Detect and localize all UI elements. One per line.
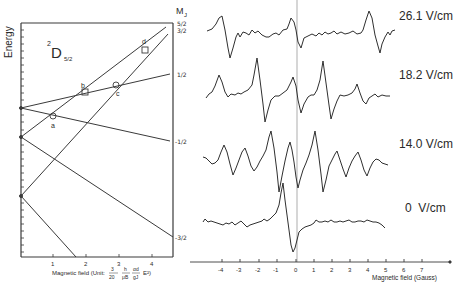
svg-text:7: 7 bbox=[420, 267, 424, 273]
line-mj-minus-5-2 bbox=[21, 196, 76, 257]
svg-text:Magnetic field (Unit:: Magnetic field (Unit: bbox=[52, 270, 105, 276]
x-tick-label: 1 bbox=[51, 261, 55, 267]
crossing-label-c: c bbox=[116, 90, 120, 97]
right-x-tick-labels: -4 -3 -2 -1 0 1 2 3 4 5 6 7 bbox=[218, 267, 424, 273]
svg-text:3: 3 bbox=[111, 266, 114, 272]
trace-label-14-0: 14.0 V/cm bbox=[399, 137, 453, 151]
mj-label: 5/2 bbox=[177, 20, 187, 27]
svg-text:-3: -3 bbox=[236, 267, 242, 273]
crossing-label-d: d bbox=[142, 38, 146, 45]
trace-14-0 bbox=[203, 131, 388, 192]
svg-text:1: 1 bbox=[312, 267, 316, 273]
crossing-label-a: a bbox=[51, 122, 55, 129]
trace-label-18-2: 18.2 V/cm bbox=[399, 68, 453, 82]
svg-text:J: J bbox=[184, 12, 187, 18]
trace-label-0: 0 V/cm bbox=[405, 201, 446, 215]
mj-label: 3/2 bbox=[177, 27, 187, 34]
svg-text:4: 4 bbox=[366, 267, 370, 273]
svg-text:-2: -2 bbox=[255, 267, 261, 273]
figure: Energy 2 D 5/2 M J 5/2 3/2 1/2 -1/2 -3/2… bbox=[0, 0, 466, 289]
svg-text:5/2: 5/2 bbox=[64, 56, 73, 62]
origin-dot bbox=[20, 107, 23, 110]
svg-text:h: h bbox=[124, 266, 127, 272]
term-symbol: 2 D 5/2 bbox=[47, 40, 73, 62]
x-tick-label: 4 bbox=[150, 261, 154, 267]
svg-text:αd: αd bbox=[133, 266, 139, 272]
trace-18-2 bbox=[206, 58, 390, 122]
mj-label: 1/2 bbox=[177, 71, 187, 78]
right-x-axis-label: Magnetic field (Gauss) bbox=[372, 274, 437, 282]
crossing-label-b: b bbox=[81, 82, 85, 89]
svg-text:-4: -4 bbox=[218, 267, 224, 273]
svg-text:gJ: gJ bbox=[133, 274, 139, 280]
zeeman-lines bbox=[21, 27, 173, 257]
left-x-axis-label: Magnetic field (Unit: 3 20 h μB αd gJ E²… bbox=[52, 266, 151, 280]
svg-text:5: 5 bbox=[384, 267, 388, 273]
origin-dot bbox=[20, 136, 23, 139]
svg-text:0: 0 bbox=[294, 267, 298, 273]
svg-text:3: 3 bbox=[348, 267, 352, 273]
svg-text:D: D bbox=[51, 44, 62, 61]
mj-header: M J bbox=[176, 6, 187, 18]
x-tick-label: 3 bbox=[117, 261, 121, 267]
mj-label: -1/2 bbox=[175, 138, 187, 145]
svg-text:6: 6 bbox=[402, 267, 406, 273]
line-mj-minus-1-2 bbox=[21, 108, 170, 141]
line-mj-3-2 bbox=[21, 34, 168, 196]
svg-text:M: M bbox=[176, 6, 184, 16]
svg-text:2: 2 bbox=[330, 267, 334, 273]
svg-text:E²): E²) bbox=[143, 270, 151, 276]
svg-text:20: 20 bbox=[109, 274, 115, 280]
signal-traces bbox=[203, 0, 395, 262]
svg-text:μB: μB bbox=[122, 274, 129, 280]
trace-26-1 bbox=[207, 11, 395, 58]
trace-label-26-1: 26.1 V/cm bbox=[399, 9, 453, 23]
svg-text:-1: -1 bbox=[273, 267, 279, 273]
crossing-marker-d bbox=[142, 47, 148, 53]
y-axis-label: Energy bbox=[3, 26, 14, 58]
x-tick-label: 2 bbox=[84, 261, 88, 267]
origin-dot bbox=[20, 195, 23, 198]
crossing-marker-c bbox=[113, 82, 119, 88]
line-mj-1-2 bbox=[21, 74, 170, 108]
mj-label: -3/2 bbox=[175, 234, 187, 241]
right-x-axis bbox=[190, 259, 451, 263]
energy-level-diagram bbox=[20, 23, 174, 257]
trace-0 bbox=[203, 183, 385, 252]
